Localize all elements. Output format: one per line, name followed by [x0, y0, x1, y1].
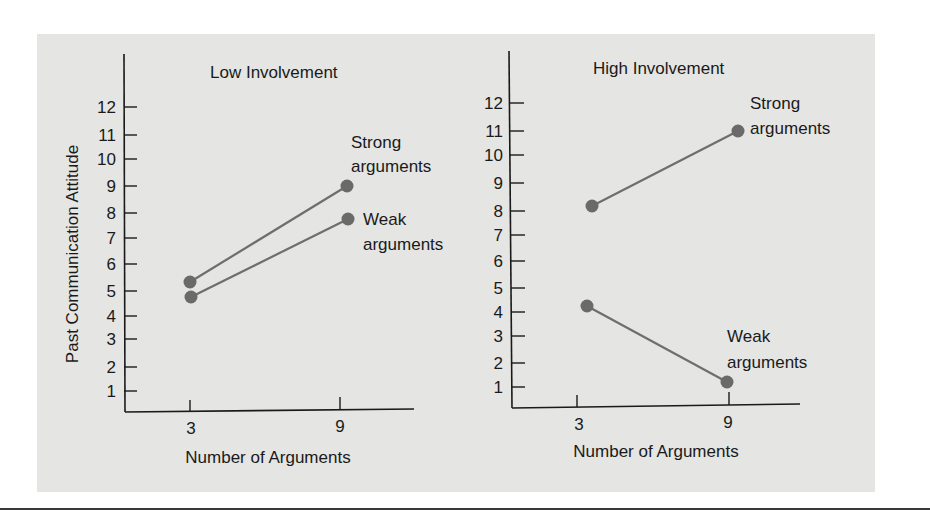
left-y-tick-labels: 12 11 10 9 8 7 6 5 4 3 2 1 [97, 98, 116, 401]
right-x-tick-label-3: 3 [574, 415, 583, 434]
y-tick-label: 3 [107, 330, 116, 349]
right-series-strong [586, 125, 745, 213]
right-weak-label-line2: arguments [727, 353, 807, 372]
data-point-marker [184, 276, 197, 289]
y-tick-label: 8 [107, 204, 116, 223]
right-x-axis-title: Number of Arguments [573, 442, 738, 461]
y-tick-label: 1 [107, 382, 116, 401]
y-tick-label: 9 [494, 174, 503, 193]
right-x-axis [512, 404, 800, 408]
right-series-weak [581, 300, 734, 389]
right-strong-label-line2: arguments [750, 119, 830, 138]
right-x-tick-label-9: 9 [723, 413, 732, 432]
data-point-marker [721, 376, 734, 389]
y-tick-label: 2 [494, 354, 503, 373]
left-x-axis-title: Number of Arguments [185, 448, 350, 467]
data-point-marker [185, 291, 198, 304]
left-chart-title: Low Involvement [210, 63, 338, 82]
y-tick-label: 1 [494, 378, 503, 397]
y-tick-label: 7 [107, 229, 116, 248]
y-tick-label: 10 [97, 150, 116, 169]
data-point-marker [581, 300, 594, 313]
left-x-tick-label-9: 9 [335, 417, 344, 436]
left-weak-label-line1: Weak [363, 210, 407, 229]
y-tick-label: 5 [107, 282, 116, 301]
left-strong-label-line1: Strong [351, 133, 401, 152]
y-tick-label: 10 [484, 146, 503, 165]
y-tick-label: 9 [107, 177, 116, 196]
left-x-tick-label-3: 3 [186, 419, 195, 438]
left-chart: 12 11 10 9 8 7 6 5 4 3 2 1 3 9 Number of… [63, 54, 443, 467]
y-tick-label: 12 [484, 94, 503, 113]
left-weak-label-line2: arguments [363, 235, 443, 254]
y-tick-label: 11 [98, 126, 116, 145]
left-series-strong [184, 180, 354, 289]
y-tick-label: 6 [494, 252, 503, 271]
y-tick-label: 4 [107, 307, 116, 326]
right-y-axis [509, 51, 512, 408]
data-point-marker [341, 180, 354, 193]
left-y-ticks [124, 107, 137, 391]
data-point-marker [732, 125, 745, 138]
y-tick-label: 8 [494, 202, 503, 221]
data-point-marker [342, 213, 355, 226]
right-strong-label-line1: Strong [750, 94, 800, 113]
left-x-axis [125, 409, 414, 412]
chart-canvas: 12 11 10 9 8 7 6 5 4 3 2 1 3 9 Number of… [0, 0, 930, 527]
right-chart-title: High Involvement [593, 59, 725, 78]
y-tick-label: 5 [494, 279, 503, 298]
left-series-weak [185, 213, 355, 304]
y-axis-title: Past Communication Attitude [63, 145, 82, 363]
y-tick-label: 6 [107, 255, 116, 274]
y-tick-label: 4 [494, 303, 503, 322]
right-chart: 12 11 10 9 8 7 6 5 4 3 2 1 3 9 Number of… [484, 51, 830, 461]
y-tick-label: 2 [107, 358, 116, 377]
y-tick-label: 11 [485, 122, 503, 141]
right-weak-label-line1: Weak [727, 327, 771, 346]
y-tick-label: 12 [97, 98, 116, 117]
y-tick-label: 7 [494, 226, 503, 245]
y-tick-label: 3 [494, 327, 503, 346]
right-y-tick-labels: 12 11 10 9 8 7 6 5 4 3 2 1 [484, 94, 503, 397]
data-point-marker [586, 200, 599, 213]
left-strong-label-line2: arguments [351, 157, 431, 176]
